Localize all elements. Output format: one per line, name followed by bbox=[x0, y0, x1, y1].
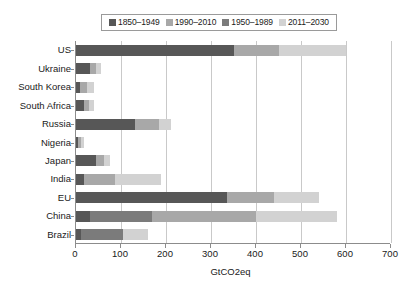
legend-label: 1950–1989 bbox=[231, 18, 273, 27]
bar-segment[interactable] bbox=[84, 174, 115, 185]
legend-swatch-icon bbox=[166, 19, 173, 26]
x-axis-label: 0 bbox=[72, 249, 77, 259]
bar-segment[interactable] bbox=[76, 100, 84, 111]
y-axis-tick bbox=[71, 198, 74, 199]
bar-row[interactable] bbox=[76, 133, 84, 151]
x-axis-label: 200 bbox=[157, 249, 173, 259]
bar-row[interactable] bbox=[76, 207, 337, 225]
x-axis-label: 300 bbox=[202, 249, 218, 259]
y-axis-tick bbox=[71, 50, 74, 51]
legend-label: 1850–1949 bbox=[118, 18, 160, 27]
y-axis-label: US bbox=[0, 45, 71, 55]
stacked-bar[interactable] bbox=[76, 82, 94, 93]
bar-segment[interactable] bbox=[135, 119, 160, 130]
bar-segment[interactable] bbox=[81, 137, 84, 148]
bar-segment[interactable] bbox=[76, 155, 96, 166]
bar-segment[interactable] bbox=[90, 211, 152, 222]
legend-item[interactable]: 1950–1989 bbox=[222, 18, 273, 27]
bar-segment[interactable] bbox=[256, 211, 337, 222]
stacked-bar[interactable] bbox=[76, 229, 148, 240]
x-axis-title: GtCO2eq bbox=[0, 266, 416, 277]
y-axis-tick bbox=[71, 87, 74, 88]
stacked-bar[interactable] bbox=[76, 137, 84, 148]
bar-segment[interactable] bbox=[123, 229, 148, 240]
bar-segment[interactable] bbox=[96, 155, 104, 166]
bar-row[interactable] bbox=[76, 78, 94, 96]
y-axis-label: Brazil bbox=[0, 230, 71, 240]
legend-swatch-icon bbox=[222, 19, 229, 26]
y-axis-label: Japan bbox=[0, 156, 71, 166]
y-axis-tick bbox=[71, 69, 74, 70]
bar-segment[interactable] bbox=[76, 63, 90, 74]
bar-segment[interactable] bbox=[76, 211, 90, 222]
bar-segment[interactable] bbox=[152, 211, 256, 222]
legend-label: 2011–2030 bbox=[288, 18, 329, 27]
bar-segment[interactable] bbox=[159, 119, 170, 130]
stacked-bar[interactable] bbox=[76, 100, 94, 111]
legend-item[interactable]: 1850–1949 bbox=[109, 18, 160, 27]
y-axis-label: South Africa bbox=[0, 101, 71, 111]
y-axis-tick bbox=[71, 124, 74, 125]
x-axis-label: 400 bbox=[247, 249, 263, 259]
bar-row[interactable] bbox=[76, 59, 101, 77]
bar-segment[interactable] bbox=[89, 100, 94, 111]
bar-row[interactable] bbox=[76, 226, 148, 244]
bar-segment[interactable] bbox=[76, 119, 135, 130]
x-axis-labels: 0100200300400500600700 bbox=[0, 249, 416, 263]
y-axis-label: India bbox=[0, 174, 71, 184]
y-axis-label: Russia bbox=[0, 119, 71, 129]
y-axis-label: Ukraine bbox=[0, 64, 71, 74]
chart-container: 1850–19491990–20101950–19892011–2030 USU… bbox=[0, 0, 416, 289]
bar-row[interactable] bbox=[76, 96, 94, 114]
legend-swatch-icon bbox=[109, 19, 116, 26]
y-axis-tick bbox=[71, 235, 74, 236]
bar-row[interactable] bbox=[76, 170, 161, 188]
bar-segment[interactable] bbox=[87, 82, 94, 93]
y-axis-tick bbox=[71, 179, 74, 180]
bar-segment[interactable] bbox=[76, 45, 234, 56]
bar-segment[interactable] bbox=[81, 229, 123, 240]
bar-segment[interactable] bbox=[104, 155, 109, 166]
bar-segment[interactable] bbox=[274, 192, 319, 203]
y-axis-label: Nigeria bbox=[0, 138, 71, 148]
bar-segment[interactable] bbox=[76, 174, 84, 185]
stacked-bar[interactable] bbox=[76, 45, 346, 56]
y-axis-labels: USUkraineSouth KoreaSouth AfricaRussiaNi… bbox=[0, 41, 71, 244]
x-axis-label: 100 bbox=[112, 249, 128, 259]
gridline bbox=[391, 41, 392, 243]
bar-segment[interactable] bbox=[279, 45, 347, 56]
y-axis-label: South Korea bbox=[0, 82, 71, 92]
y-axis-label: China bbox=[0, 211, 71, 221]
bar-segment[interactable] bbox=[115, 174, 162, 185]
bar-segment[interactable] bbox=[96, 63, 101, 74]
stacked-bar[interactable] bbox=[76, 119, 171, 130]
bar-row[interactable] bbox=[76, 152, 110, 170]
bar-row[interactable] bbox=[76, 41, 346, 59]
bar-row[interactable] bbox=[76, 115, 171, 133]
stacked-bar[interactable] bbox=[76, 211, 337, 222]
y-axis-tick bbox=[71, 143, 74, 144]
bar-segment[interactable] bbox=[227, 192, 274, 203]
y-axis-tick bbox=[71, 106, 74, 107]
stacked-bar[interactable] bbox=[76, 155, 110, 166]
y-axis-tick bbox=[71, 161, 74, 162]
bar-segment[interactable] bbox=[80, 82, 88, 93]
legend-label: 1990–2010 bbox=[175, 18, 217, 27]
bar-segment[interactable] bbox=[234, 45, 279, 56]
x-axis-label: 600 bbox=[337, 249, 353, 259]
x-axis-title-text: GtCO2eq bbox=[165, 266, 250, 277]
bar-row[interactable] bbox=[76, 189, 319, 207]
x-axis-label: 700 bbox=[382, 249, 398, 259]
legend-item[interactable]: 1990–2010 bbox=[166, 18, 217, 27]
y-axis-label: EU bbox=[0, 193, 71, 203]
stacked-bar[interactable] bbox=[76, 192, 319, 203]
x-axis-label: 500 bbox=[292, 249, 308, 259]
plot-area bbox=[75, 41, 390, 244]
y-axis-tick bbox=[71, 216, 74, 217]
bar-series-group bbox=[76, 41, 390, 243]
chart-legend: 1850–19491990–20101950–19892011–2030 bbox=[101, 14, 337, 31]
stacked-bar[interactable] bbox=[76, 174, 161, 185]
legend-item[interactable]: 2011–2030 bbox=[279, 18, 329, 27]
stacked-bar[interactable] bbox=[76, 63, 101, 74]
bar-segment[interactable] bbox=[76, 192, 227, 203]
